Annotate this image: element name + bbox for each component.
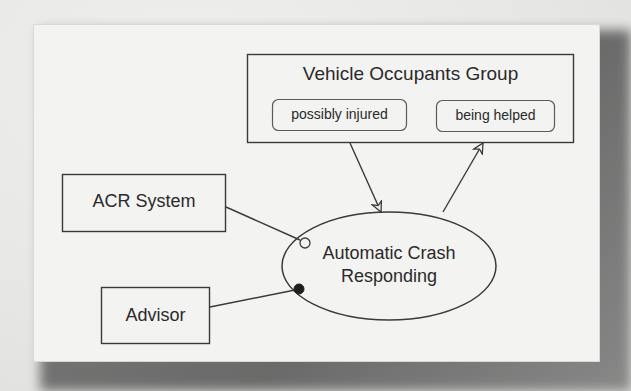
edge-acr-system-to-usecase [226,207,300,240]
group-title: Vehicle Occupants Group [247,63,574,85]
state-being-helped-label: being helped [436,107,555,123]
actor-advisor-label: Advisor [101,305,210,326]
edge-injured-to-usecase [350,143,381,212]
use-case-label-line2: Responding [282,266,496,287]
actor-acr-system-label: ACR System [62,191,226,212]
edge-advisor-to-usecase [210,290,295,307]
edge-usecase-to-helped [443,143,483,212]
use-case-label-line1: Automatic Crash [282,243,496,264]
state-possibly-injured-label: possibly injured [272,106,407,122]
